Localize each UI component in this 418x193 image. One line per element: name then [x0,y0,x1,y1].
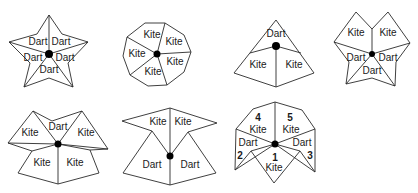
figure-star-decagon: Kite Kite Kite Kite Kite [123,23,191,86]
vertex-dot [167,153,174,160]
tile-label: Dart [40,64,59,75]
tile-label: Dart [293,137,312,148]
tile-label: Kite [285,59,303,70]
vertex-dot [369,51,375,57]
tile-number: 4 [255,112,261,123]
tile-label: Kite [144,66,162,77]
tile-label: Kite [21,127,39,138]
tile-label: Dart [56,52,75,63]
tile-label: Kite [165,36,183,47]
tile-label: Kite [33,157,51,168]
tile-label: Dart [24,52,43,63]
vertex-dot [272,42,280,50]
tile-label: Kite [143,29,161,40]
tile-label: Kite [128,48,146,59]
tile-label: Dart [347,52,366,63]
tile-number: 3 [307,150,313,161]
tile-label: Kite [347,27,365,38]
tile-label: Kite [66,157,84,168]
tile-number: 5 [287,112,293,123]
vertex-dot [154,51,161,58]
figure-queen: Kite Kite Dart Dart [122,108,217,185]
tile-number: 2 [237,150,243,161]
tile-label: Dart [267,28,286,39]
tile-label: Kite [282,124,300,135]
vertex-dot [55,141,62,148]
tile-label: Kite [379,27,397,38]
figure-ace: Dart Kite Kite [234,20,314,87]
tile-label: Kite [77,127,95,138]
tile-label: Dart [239,137,258,148]
tile-label: Dart [363,65,382,76]
tile-label: Dart [143,159,162,170]
tile-label: Dart [52,36,71,47]
figure-jack: Kite Dart Kite Kite Kite [8,111,108,184]
tile-label: Dart [181,159,200,170]
tile-label: Kite [249,124,267,135]
tile-label: Kite [249,59,267,70]
tile-label: Kite [265,162,283,173]
tile-label: Kite [149,116,167,127]
vertex-configurations-diagram: Dart Dart Dart Dart Dart Kite Kite Kite … [0,0,418,193]
tile-label: Dart [29,36,48,47]
vertex-dot [272,141,279,148]
tile-label: Kite [166,56,184,67]
figure-deuce: Kite Kite Dart Dart Dart [334,12,410,86]
vertex-dot [45,50,53,58]
tile-label: Dart [49,121,68,132]
tile-label: Dart [379,52,398,63]
figure-sun: Dart Dart Dart Dart Dart [9,15,88,87]
tile-label: Kite [174,116,192,127]
figure-king: 4 Kite 5 Kite Dart 2 Dart 3 1 Kite [235,102,315,183]
